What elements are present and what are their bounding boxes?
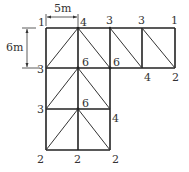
node-label: 2 — [172, 71, 179, 84]
node-label: 3 — [138, 14, 145, 27]
width-dimension: 5m — [46, 2, 78, 26]
height-dimension: 6m — [6, 28, 40, 68]
node-label: 3 — [106, 14, 113, 27]
node-label: 1 — [171, 14, 178, 27]
node-label: 6 — [82, 56, 89, 69]
height-label: 6m — [6, 41, 24, 54]
node-label: 2 — [74, 153, 81, 166]
node-labels: 1 4 3 3 1 3 6 6 4 2 3 6 4 2 2 2 — [37, 14, 179, 166]
node-label: 1 — [38, 16, 45, 29]
node-label: 2 — [37, 153, 44, 166]
node-label: 3 — [37, 103, 44, 116]
node-label: 6 — [113, 56, 120, 69]
node-label: 2 — [112, 153, 119, 166]
truss-diagram: 5m 6m 1 4 3 3 1 3 6 6 4 2 3 6 4 2 2 2 — [0, 0, 189, 172]
node-label: 4 — [112, 112, 119, 125]
node-label: 4 — [144, 71, 151, 84]
node-label: 6 — [82, 97, 89, 110]
node-label: 4 — [80, 16, 87, 29]
truss-members — [46, 28, 175, 150]
node-label: 3 — [37, 63, 44, 76]
width-label: 5m — [54, 2, 72, 15]
